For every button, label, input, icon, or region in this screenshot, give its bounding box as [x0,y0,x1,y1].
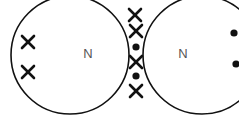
electron-dot [132,72,139,79]
atom-label-right: N [178,46,187,61]
dot-and-cross-diagram: N N [0,0,239,119]
electron-cross [22,36,34,48]
electron-shells [11,0,239,114]
electron-dot [232,60,239,67]
electron-cross [130,85,142,97]
electron-shell-left-atom [11,0,129,114]
electron-dot [132,43,139,50]
electron-layer [22,9,239,97]
electron-cross [22,66,34,78]
electron-shell-right-atom [143,0,239,114]
diagram-canvas: N N [0,0,239,119]
electron-dot [230,29,237,36]
atom-label-left: N [83,46,92,61]
electron-cross [130,56,142,68]
electron-cross [129,9,141,21]
electron-cross [130,25,142,37]
